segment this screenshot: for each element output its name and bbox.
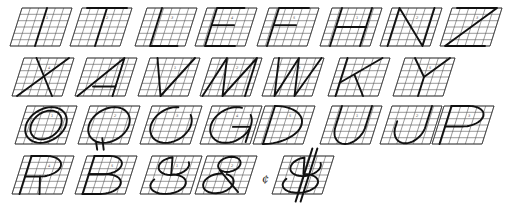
letter-grid-a: 5 [75,56,141,100]
letter-grid-z: 3 [440,6,506,50]
svg-text:1: 1 [176,164,178,168]
cent-sign: ¢ [262,172,269,185]
letter-grid-o: 1 [15,104,81,148]
letter-grid-i: 1 [10,6,76,50]
svg-text:4: 4 [231,16,233,20]
svg-text:5: 5 [429,66,432,70]
letter-grid-h: 1 [320,6,386,50]
letter-grid-m: 2 [200,56,266,100]
svg-text:3: 3 [176,114,178,118]
svg-text:1: 1 [356,114,358,118]
letter-grid-d: 5 [253,104,319,148]
svg-text:3: 3 [476,16,478,20]
svg-text:2: 2 [416,16,419,20]
letter-grid-r: 4 [12,154,78,198]
letter-grid-y: 5 [393,56,459,100]
svg-text:3: 3 [308,164,310,168]
letter-grid-q: 2 [78,104,144,148]
svg-text:5: 5 [289,114,292,118]
svg-text:2: 2 [114,114,117,118]
letter-grid-dollar: 3 [272,154,338,198]
svg-text:1: 1 [51,114,53,118]
letter-grid-k: 4 [328,56,394,100]
svg-text:5: 5 [293,16,296,20]
svg-text:3: 3 [468,114,470,118]
svg-text:1: 1 [174,66,176,70]
letter-grid-p: 3 [432,104,498,148]
svg-text:2: 2 [416,114,419,118]
svg-text:3: 3 [298,66,300,70]
letter-grid-u: 1 [320,104,386,148]
svg-text:1: 1 [356,16,358,20]
letter-grid-w: 3 [262,56,328,100]
letter-grid-x: 4 [12,56,78,100]
svg-text:4: 4 [364,66,366,70]
letter-grid-e: 4 [195,6,261,50]
letter-grid-b: 5 [75,154,141,198]
svg-text:2: 2 [231,164,234,168]
letter-grid-ampersand: 2 [195,154,261,198]
svg-text:1: 1 [46,16,48,20]
svg-text:4: 4 [236,114,238,118]
letter-grid-c: 3 [140,104,206,148]
svg-text:2: 2 [106,16,109,20]
svg-text:2: 2 [236,66,239,70]
svg-text:5: 5 [111,164,114,168]
svg-text:4: 4 [48,164,50,168]
letter-grid-f: 5 [257,6,323,50]
letter-grid-l: 3 [135,6,201,50]
letter-grid-t: 2 [70,6,136,50]
letter-grid-n: 2 [380,6,446,50]
letter-grid-v: 1 [138,56,204,100]
svg-text:4: 4 [48,66,50,70]
svg-text:3: 3 [171,16,173,20]
